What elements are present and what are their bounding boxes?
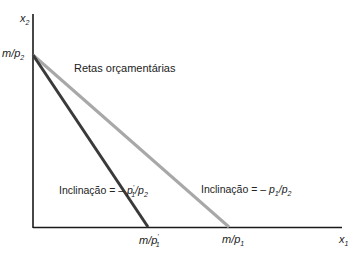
x-intercept-new-label: m/p'1: [139, 233, 160, 248]
slope-new-prefix: Inclinação = –: [59, 184, 127, 196]
x-intercept-old-sub: 1: [240, 240, 244, 247]
budget-lines-title: Retas orçamentárias: [74, 62, 176, 74]
x-intercept-old-text: m/p: [222, 233, 240, 245]
slope-old-den-sub: 2: [288, 190, 292, 197]
slope-new-prime: ': [133, 183, 134, 190]
x-intercept-new-text: m/p: [139, 234, 157, 246]
x-intercept-old-label: m/p1: [222, 233, 244, 247]
budget-diagram-canvas: [0, 0, 358, 253]
y-axis-sub: 2: [26, 19, 30, 26]
slope-new-label: Inclinação = – p'1/p2: [59, 183, 148, 198]
y-intercept-label: m/p2: [2, 47, 24, 61]
y-axis-label: x2: [20, 12, 29, 26]
x-intercept-new-sub: 1: [156, 241, 160, 248]
slope-old-prefix: Inclinação = –: [201, 183, 269, 195]
x-intercept-new-prime: ': [157, 233, 158, 240]
slope-new-den-sub: 2: [144, 191, 148, 198]
y-intercept-text: m/p: [2, 47, 20, 59]
slope-old-label: Inclinação = – p1/p2: [201, 183, 291, 197]
x-axis-label: x1: [339, 233, 348, 247]
y-intercept-sub: 2: [20, 54, 24, 61]
x-axis-sub: 1: [345, 240, 349, 247]
